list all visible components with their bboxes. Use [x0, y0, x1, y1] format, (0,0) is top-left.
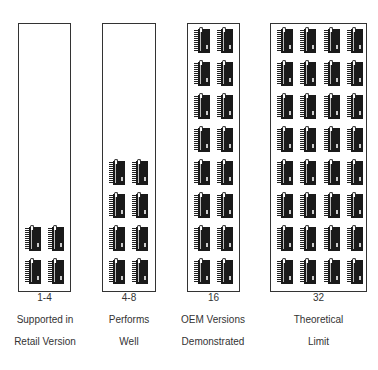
processor-chip-icon	[277, 126, 293, 152]
processor-chip-icon	[25, 225, 41, 251]
processor-chip-icon	[324, 27, 340, 53]
processor-chip-icon	[217, 60, 233, 86]
processor-chip-icon	[25, 258, 41, 284]
processor-chip-icon	[277, 60, 293, 86]
processor-chip-icon	[48, 258, 64, 284]
processor-chip-icon	[277, 258, 293, 284]
processor-chip-icon	[347, 258, 363, 284]
count-label-retail: 1-4	[18, 292, 71, 303]
processor-chip-icon	[300, 27, 316, 53]
processor-chip-icon	[347, 60, 363, 86]
caption-oem-line1: OEM Versions	[168, 314, 258, 325]
processor-chip-icon	[277, 93, 293, 119]
processor-chip-icon	[217, 258, 233, 284]
processor-chip-icon	[347, 192, 363, 218]
count-label-oem: 16	[187, 292, 240, 303]
processor-chip-icon	[132, 192, 148, 218]
processor-chip-icon	[132, 159, 148, 185]
caption-theoretical-line2: Limit	[270, 336, 367, 347]
processor-chip-icon	[277, 192, 293, 218]
processor-chip-icon	[194, 192, 210, 218]
processor-chip-icon	[300, 93, 316, 119]
processor-chip-icon	[217, 159, 233, 185]
processor-chip-icon	[347, 27, 363, 53]
processor-chip-icon	[324, 258, 340, 284]
processor-chip-icon	[109, 225, 125, 251]
processor-chip-icon	[300, 60, 316, 86]
processor-chip-icon	[300, 258, 316, 284]
caption-oem-line2: Demonstrated	[168, 336, 258, 347]
processor-chip-icon	[109, 159, 125, 185]
processor-chip-icon	[324, 192, 340, 218]
processor-chip-icon	[194, 93, 210, 119]
count-label-performs-well: 4-8	[102, 292, 156, 303]
processor-chip-icon	[109, 258, 125, 284]
count-label-theoretical: 32	[270, 292, 367, 303]
processor-chip-icon	[347, 225, 363, 251]
processor-chip-icon	[347, 126, 363, 152]
processor-chip-icon	[347, 93, 363, 119]
processor-chip-icon	[277, 225, 293, 251]
processor-chip-icon	[277, 159, 293, 185]
processor-chip-icon	[217, 93, 233, 119]
processor-chip-icon	[300, 192, 316, 218]
processor-chip-icon	[194, 258, 210, 284]
processor-chip-icon	[324, 93, 340, 119]
processor-chip-icon	[194, 225, 210, 251]
processor-chip-icon	[109, 192, 125, 218]
processor-chip-icon	[194, 27, 210, 53]
processor-chip-icon	[217, 27, 233, 53]
processor-chip-icon	[347, 159, 363, 185]
processor-chip-icon	[194, 159, 210, 185]
processor-chip-icon	[300, 126, 316, 152]
processor-chip-icon	[48, 225, 64, 251]
caption-retail-line2: Retail Version	[0, 336, 90, 347]
processor-chip-icon	[194, 126, 210, 152]
processor-chip-icon	[217, 126, 233, 152]
processor-chip-icon	[217, 192, 233, 218]
processor-chip-icon	[217, 225, 233, 251]
processor-chip-icon	[277, 27, 293, 53]
processor-chip-icon	[324, 225, 340, 251]
column-box-performs-well	[102, 23, 156, 292]
column-box-retail	[18, 23, 71, 292]
processor-chip-icon	[132, 225, 148, 251]
caption-theoretical-line1: Theoretical	[270, 314, 367, 325]
processor-chip-icon	[300, 159, 316, 185]
processor-chip-icon	[132, 258, 148, 284]
processor-chip-icon	[324, 126, 340, 152]
processor-chip-icon	[324, 159, 340, 185]
processor-chip-icon	[194, 60, 210, 86]
caption-performs-line1: Performs	[84, 314, 174, 325]
processor-chip-icon	[324, 60, 340, 86]
processor-chip-icon	[300, 225, 316, 251]
caption-performs-line2: Well	[84, 336, 174, 347]
caption-retail-line1: Supported in	[0, 314, 90, 325]
